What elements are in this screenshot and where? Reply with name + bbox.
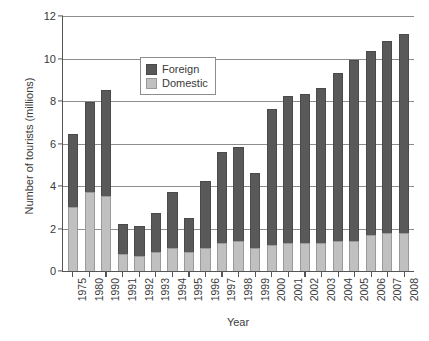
y-tick-label: 8: [50, 95, 56, 107]
x-axis-title: Year: [62, 316, 414, 328]
bar-segment-domestic: [333, 241, 343, 271]
x-label-cell: 2000: [263, 278, 280, 312]
bar-stack: [101, 90, 111, 271]
bar-group: [346, 16, 363, 271]
x-tick-mark: [387, 272, 388, 277]
x-label-cell: 2001: [280, 278, 297, 312]
bar-segment-foreign: [316, 88, 326, 244]
y-axis-title: Number of tourists (millions): [23, 31, 35, 261]
bar-segment-domestic: [68, 207, 78, 271]
y-tick-label: 2: [50, 223, 56, 235]
bar-stack: [167, 192, 177, 271]
x-tick-mark: [72, 272, 73, 277]
bar-stack: [118, 224, 128, 271]
x-tick-mark: [105, 272, 106, 277]
bar-segment-foreign: [366, 51, 376, 234]
bar-segment-domestic: [134, 256, 144, 271]
x-tick-mark: [122, 272, 123, 277]
x-label-cell: 2003: [313, 278, 330, 312]
bar-group: [363, 16, 380, 271]
bar-segment-domestic: [300, 243, 310, 271]
chart-legend: ForeignDomestic: [140, 57, 216, 95]
bar-segment-domestic: [316, 243, 326, 271]
bar-group: [181, 16, 198, 271]
x-tick-mark: [205, 272, 206, 277]
x-tick-mark: [304, 272, 305, 277]
x-tick-mark: [288, 272, 289, 277]
x-label-cell: 2002: [296, 278, 313, 312]
x-label-cell: 1997: [213, 278, 230, 312]
bar-group: [98, 16, 115, 271]
bars-layer: [63, 16, 414, 271]
x-tick-mark: [188, 272, 189, 277]
x-tick-mark: [221, 272, 222, 277]
x-tick-mark: [255, 272, 256, 277]
bar-stack: [134, 226, 144, 271]
bar-segment-domestic: [382, 233, 392, 271]
x-label-cell: 1999: [246, 278, 263, 312]
x-tick-label: 2008: [408, 278, 420, 301]
x-label-cell: 1990: [97, 278, 114, 312]
bar-group: [263, 16, 280, 271]
bar-segment-domestic: [283, 243, 293, 271]
bar-group: [230, 16, 247, 271]
bar-segment-foreign: [134, 226, 144, 256]
bar-group: [313, 16, 330, 271]
bar-stack: [366, 51, 376, 271]
x-tick-mark: [238, 272, 239, 277]
bar-group: [247, 16, 264, 271]
bar-stack: [68, 134, 78, 271]
x-tick-mark: [354, 272, 355, 277]
bar-group: [214, 16, 231, 271]
bar-segment-foreign: [250, 173, 260, 248]
x-label-cell: 2007: [379, 278, 396, 312]
bar-group: [330, 16, 347, 271]
x-label-cell: 2005: [346, 278, 363, 312]
x-label-cell: 2006: [362, 278, 379, 312]
bar-group: [197, 16, 214, 271]
y-tick-label: 12: [44, 10, 56, 22]
plot-area: 024681012: [62, 16, 414, 272]
bar-segment-domestic: [200, 248, 210, 271]
bar-segment-foreign: [68, 134, 78, 207]
legend-swatch-domestic-icon: [146, 78, 157, 89]
bar-group: [379, 16, 396, 271]
bar-stack: [283, 96, 293, 271]
bar-stack: [300, 94, 310, 271]
bar-group: [115, 16, 132, 271]
bar-segment-foreign: [85, 102, 95, 192]
x-label-cell: 1980: [81, 278, 98, 312]
bar-segment-domestic: [399, 233, 409, 271]
bar-segment-domestic: [366, 235, 376, 271]
y-tick-label: 4: [50, 180, 56, 192]
bar-segment-domestic: [167, 248, 177, 271]
bar-stack: [184, 218, 194, 271]
bar-segment-domestic: [233, 241, 243, 271]
bar-group: [131, 16, 148, 271]
bar-segment-foreign: [217, 152, 227, 244]
x-tick-mark: [139, 272, 140, 277]
bar-segment-domestic: [267, 245, 277, 271]
bar-segment-domestic: [101, 196, 111, 271]
bar-stack: [267, 109, 277, 271]
bar-segment-foreign: [283, 96, 293, 243]
y-tick-label: 0: [50, 265, 56, 277]
bar-group: [164, 16, 181, 271]
bar-stack: [151, 213, 161, 271]
x-label-cell: 1996: [197, 278, 214, 312]
legend-swatch-foreign-icon: [146, 64, 157, 75]
bar-group: [82, 16, 99, 271]
legend-item-foreign: Foreign: [146, 62, 208, 76]
bar-segment-foreign: [184, 218, 194, 252]
bar-stack: [250, 173, 260, 271]
x-tick-mark: [371, 272, 372, 277]
tourist-numbers-stacked-bar-chart: Number of tourists (millions) 024681012 …: [0, 0, 429, 341]
bar-stack: [349, 60, 359, 271]
x-tick-mark: [404, 272, 405, 277]
legend-label: Domestic: [162, 77, 208, 89]
bar-stack: [85, 102, 95, 271]
bar-group: [296, 16, 313, 271]
x-label-cell: 1991: [114, 278, 131, 312]
bar-group: [65, 16, 82, 271]
x-tick-mark: [271, 272, 272, 277]
